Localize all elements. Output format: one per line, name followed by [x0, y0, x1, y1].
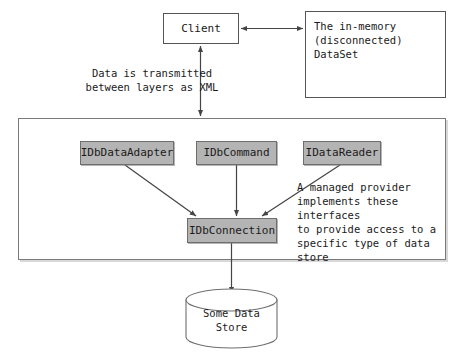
arrow-adapter-to-connection [125, 165, 196, 216]
interface-box-idatareader[interactable]: IDataReader [303, 141, 381, 165]
client-box-label: Client [181, 22, 221, 36]
managed-provider-caption: A managed provider implements these inte… [297, 180, 447, 264]
interface-box-idbcommand-label: IDbCommand [203, 146, 269, 160]
connection-box-idbconnection[interactable]: IDbConnection [187, 218, 277, 243]
client-box[interactable]: Client [163, 13, 239, 44]
connection-box-label: IDbConnection [189, 224, 275, 238]
interface-box-idbdataadapter[interactable]: IDbDataAdapter [80, 141, 174, 165]
xml-transmission-caption: Data is transmitted between layers as XM… [62, 66, 242, 94]
interface-box-idatareader-label: IDataReader [306, 146, 379, 160]
interface-box-idbcommand[interactable]: IDbCommand [196, 141, 277, 165]
data-store-label: Some Data Store [186, 306, 277, 334]
interface-box-idbdataadapter-label: IDbDataAdapter [81, 146, 174, 160]
dataset-box-label: The in-memory (disconnected) DataSet [314, 19, 434, 61]
diagram-canvas: Client The in-memory (disconnected) Data… [0, 0, 464, 352]
